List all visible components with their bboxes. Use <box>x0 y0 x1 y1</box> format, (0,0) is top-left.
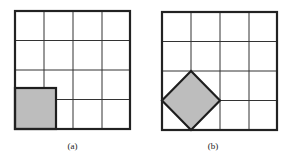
caption-a: (a) <box>68 141 78 151</box>
shaded-diamond-b <box>162 71 220 130</box>
figure: (a) (b) <box>0 0 287 157</box>
panel-a: (a) <box>15 11 130 151</box>
shaded-square-a <box>15 88 56 129</box>
caption-b: (b) <box>208 141 219 151</box>
panel-b: (b) <box>162 12 277 151</box>
